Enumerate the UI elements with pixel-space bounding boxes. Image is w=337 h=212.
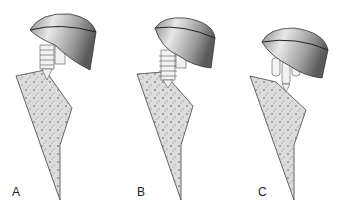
panel-c: C	[222, 0, 337, 212]
panel-label-b: B	[137, 185, 145, 199]
implant-illustration-b	[113, 0, 228, 212]
panel-a: A	[0, 0, 115, 212]
implant-illustration-c	[222, 0, 337, 212]
implant-illustration-a	[0, 0, 115, 212]
panel-label-a: A	[12, 185, 20, 199]
bone-section	[250, 76, 306, 200]
bone-section	[16, 70, 72, 200]
bone-section	[137, 72, 193, 200]
panel-label-c: C	[258, 185, 267, 199]
panel-b: B	[113, 0, 228, 212]
